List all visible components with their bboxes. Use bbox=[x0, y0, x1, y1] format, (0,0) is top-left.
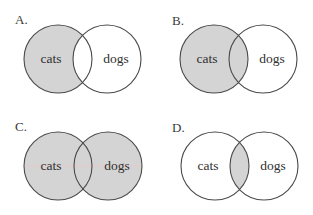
cats-label: cats bbox=[198, 158, 219, 173]
panel-label: C. bbox=[15, 120, 27, 133]
venn-diagram-canvas: catsdogscatsdogscatsdogscatsdogs bbox=[0, 0, 313, 215]
dogs-label: dogs bbox=[260, 158, 286, 173]
venn-panel-a: catsdogs bbox=[24, 25, 141, 93]
panel-label: D. bbox=[172, 121, 185, 134]
venn-panel-d: catsdogs bbox=[181, 132, 298, 200]
dogs-label: dogs bbox=[104, 158, 130, 173]
cats-label: cats bbox=[41, 158, 62, 173]
venn-panel-c: catsdogs bbox=[24, 132, 142, 200]
cats-label: cats bbox=[41, 51, 62, 66]
panel-label: B. bbox=[172, 14, 184, 27]
venn-panel-b: catsdogs bbox=[180, 25, 297, 93]
dogs-label: dogs bbox=[103, 51, 129, 66]
panel-label: A. bbox=[15, 13, 28, 26]
cats-label: cats bbox=[197, 51, 218, 66]
dogs-label: dogs bbox=[259, 51, 285, 66]
